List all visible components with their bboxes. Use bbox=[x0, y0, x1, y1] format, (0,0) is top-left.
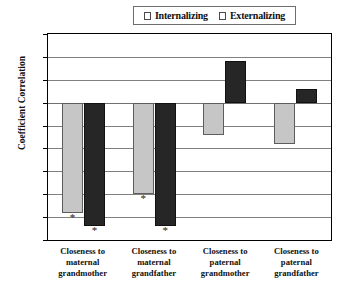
bar-internalizing-group-2 bbox=[133, 103, 154, 195]
x-axis-label-line: Closeness to bbox=[48, 246, 117, 257]
y-axis-tick-mark bbox=[43, 171, 48, 172]
legend-label-externalizing: Externalizing bbox=[230, 10, 285, 21]
gridline bbox=[48, 80, 331, 81]
bar-externalizing-group-1 bbox=[84, 103, 105, 227]
x-axis-label-line: Closeness to bbox=[119, 246, 188, 257]
legend-item-externalizing: Externalizing bbox=[219, 10, 285, 21]
x-axis-category-labels: Closeness tomaternalgrandmotherCloseness… bbox=[47, 246, 332, 279]
significance-marker: * bbox=[162, 227, 168, 233]
legend-swatch-externalizing-icon bbox=[219, 12, 226, 20]
x-axis-label-group-4: Closeness topaternalgrandfather bbox=[261, 246, 332, 279]
y-axis-tick-mark bbox=[43, 34, 48, 35]
plot-inner: **** bbox=[48, 34, 331, 240]
y-axis-tick-mark bbox=[43, 217, 48, 218]
y-axis-title: Coefficient Correlation bbox=[17, 23, 27, 183]
x-axis-label-line: maternal bbox=[119, 257, 188, 268]
plot-area: **** 0.150.100.050-0.05-0.10-0.15-0.20-0… bbox=[47, 33, 332, 241]
x-axis-label-line: grandfather bbox=[262, 268, 331, 279]
significance-marker: * bbox=[70, 214, 76, 220]
x-axis-label-line: paternal bbox=[191, 257, 260, 268]
x-axis-label-group-3: Closeness topaternalgrandmother bbox=[190, 246, 261, 279]
y-axis-tick-mark bbox=[43, 80, 48, 81]
y-axis-tick-mark bbox=[43, 148, 48, 149]
x-axis-label-line: grandmother bbox=[48, 268, 117, 279]
bar-internalizing-group-3 bbox=[203, 103, 224, 135]
y-axis-tick-mark bbox=[43, 103, 48, 104]
legend-swatch-internalizing-icon bbox=[144, 12, 151, 20]
y-axis-tick-mark bbox=[43, 126, 48, 127]
gridline bbox=[48, 57, 331, 58]
x-axis-label-line: grandmother bbox=[191, 268, 260, 279]
y-axis-tick-mark bbox=[43, 194, 48, 195]
x-axis-label-line: maternal bbox=[48, 257, 117, 268]
y-axis-tick-mark bbox=[43, 57, 48, 58]
significance-marker: * bbox=[140, 195, 146, 201]
bar-externalizing-group-3 bbox=[225, 61, 246, 102]
x-axis-label-line: Closeness to bbox=[262, 246, 331, 257]
legend-item-internalizing: Internalizing bbox=[144, 10, 208, 21]
legend-label-internalizing: Internalizing bbox=[155, 10, 208, 21]
bar-internalizing-group-4 bbox=[274, 103, 295, 144]
x-axis-label-line: Closeness to bbox=[191, 246, 260, 257]
bar-externalizing-group-4 bbox=[296, 89, 317, 103]
bar-internalizing-group-1 bbox=[62, 103, 83, 213]
x-axis-label-line: paternal bbox=[262, 257, 331, 268]
significance-marker: * bbox=[92, 227, 98, 233]
y-axis-tick-mark bbox=[43, 240, 48, 241]
x-axis-label-line: grandfather bbox=[119, 268, 188, 279]
bar-externalizing-group-2 bbox=[155, 103, 176, 227]
chart-legend: Internalizing Externalizing bbox=[133, 6, 296, 25]
x-axis-label-group-2: Closeness tomaternalgrandfather bbox=[118, 246, 189, 279]
x-axis-label-group-1: Closeness tomaternalgrandmother bbox=[47, 246, 118, 279]
